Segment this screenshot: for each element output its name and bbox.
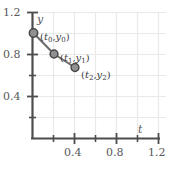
x-tick-label-1.2: 1.2 <box>148 147 166 158</box>
point-label-1-close: ) <box>86 52 90 63</box>
point-label-2-t-sub: 2 <box>89 74 93 82</box>
point-label-0-t-sub: 0 <box>48 36 52 44</box>
point-label-0-close: ) <box>66 31 70 42</box>
x-axis-label: t <box>138 124 142 135</box>
data-point-2[interactable] <box>71 64 79 72</box>
plot-canvas <box>0 0 169 172</box>
x-tick-label-0.4: 0.4 <box>64 147 82 158</box>
point-label-0-y-sub: 0 <box>61 36 65 44</box>
point-label-2-close: ) <box>107 69 111 80</box>
figure-container: 1.2 0.8 0.4 0.4 0.8 1.2 y t (t0,y0) (t1,… <box>0 0 169 172</box>
point-label-0: (t0,y0) <box>40 32 70 42</box>
point-label-2: (t2,y2) <box>81 70 111 80</box>
grid-horizontal <box>32 13 166 118</box>
x-tick-label-0.8: 0.8 <box>106 147 124 158</box>
y-tick-label-0.4: 0.4 <box>3 91 21 102</box>
data-point-1[interactable] <box>50 50 58 58</box>
point-label-1-y-sub: 1 <box>81 57 85 65</box>
y-tick-label-1.2: 1.2 <box>3 7 21 18</box>
data-point-0[interactable] <box>29 29 37 37</box>
point-label-1: (t1,y1) <box>60 53 90 63</box>
point-label-2-y-sub: 2 <box>102 74 106 82</box>
point-label-1-t-sub: 1 <box>68 57 72 65</box>
y-axis-label: y <box>37 14 43 25</box>
y-tick-label-0.8: 0.8 <box>3 49 21 60</box>
